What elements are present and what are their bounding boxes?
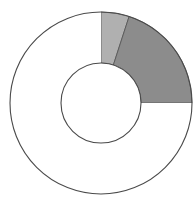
donut-chart <box>0 0 195 205</box>
donut-chart-container <box>0 0 195 205</box>
donut-inner-outline-circle <box>61 63 141 143</box>
